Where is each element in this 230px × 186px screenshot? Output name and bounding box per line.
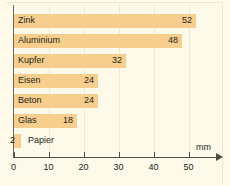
bar-zink[interactable] [14,14,196,28]
bar-category-label: Zink [18,15,35,25]
bar-value-label: 48 [168,35,178,45]
bar-value-label: 18 [63,115,73,125]
x-tick-label-10: 10 [39,162,59,172]
bar-value-label: 24 [84,75,94,85]
bar-row[interactable]: Papier2 [14,134,21,148]
bar-value-label: 2 [10,135,15,145]
x-tick-label-30: 30 [109,162,129,172]
bar-category-label: Kupfer [18,55,45,65]
x-tick-label-20: 20 [74,162,94,172]
bar-row[interactable]: Kupfer32 [14,54,126,68]
bar-row[interactable]: Beton24 [14,94,98,108]
x-tick-20 [84,152,85,158]
bar-category-label: Aluminium [18,35,60,45]
x-tick-30 [119,152,120,158]
bar-value-label: 32 [112,55,122,65]
bar-value-label: 24 [84,95,94,105]
x-tick-label-40: 40 [144,162,164,172]
bar-papier[interactable] [14,134,21,148]
bar-row[interactable]: Eisen24 [14,74,98,88]
bar-category-label: Beton [18,95,42,105]
x-tick-10 [49,152,50,158]
x-tick-0 [14,152,15,158]
x-tick-label-50: 50 [179,162,199,172]
bar-category-label: Papier [28,135,54,145]
x-tick-40 [154,152,155,158]
x-tick-label-0: 0 [4,162,24,172]
x-axis-unit-label: mm [196,142,211,152]
frame-top-border [6,2,222,3]
bar-value-label: 52 [182,15,192,25]
bar-category-label: Eisen [18,75,41,85]
x-axis-arrow-icon [216,153,223,161]
bar-row[interactable]: Zink52 [14,14,196,28]
bar-row[interactable]: Aluminium48 [14,34,182,48]
bar-chart: 01020304050 mm Zink52Aluminium48Kupfer32… [0,0,230,186]
bar-row[interactable]: Glas18 [14,114,77,128]
x-tick-50 [189,152,190,158]
x-axis-line [13,157,218,158]
bar-category-label: Glas [18,115,37,125]
